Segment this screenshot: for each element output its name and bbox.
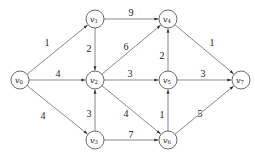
edge-weight-label: 1 [160, 109, 165, 120]
edge-weight-label: 4 [124, 108, 129, 119]
node-v5: v5 [159, 71, 177, 89]
edge-v2-v6 [102, 86, 161, 134]
edge-weight-label: 3 [87, 108, 92, 119]
arrow-line [102, 25, 161, 74]
arrow-line [175, 25, 234, 74]
arrow-line [175, 86, 234, 134]
edge-v4-v7 [175, 25, 234, 74]
nodes-layer: v0v1v2v3v4v5v6v7 [11, 10, 250, 149]
edge-weight-label: 3 [128, 68, 133, 79]
node-v4: v4 [159, 10, 177, 28]
edge-weight-label: 7 [129, 129, 134, 140]
edge-weight-label: 1 [210, 37, 215, 48]
node-v3: v3 [86, 131, 104, 149]
node-v2: v2 [86, 71, 104, 89]
edge-weight-label: 3 [201, 68, 206, 79]
edge-v2-v4 [102, 25, 161, 74]
node-v1: v1 [86, 10, 104, 28]
node-v7: v7 [232, 71, 250, 89]
edge-weight-label: 4 [56, 68, 61, 79]
edge-weight-label: 4 [41, 110, 46, 121]
edges-layer [27, 19, 234, 140]
node-v6: v6 [159, 131, 177, 149]
edge-v6-v7 [175, 86, 234, 134]
graph-diagram: 144926343723115 v0v1v2v3v4v5v6v7 [0, 0, 255, 159]
edge-weights-layer: 144926343723115 [41, 7, 215, 140]
arrow-line [27, 25, 88, 74]
edge-v0-v1 [27, 25, 88, 74]
arrow-line [27, 86, 88, 134]
edge-weight-label: 2 [160, 50, 165, 61]
node-v0: v0 [11, 71, 29, 89]
edge-weight-label: 9 [129, 7, 134, 18]
edge-weight-label: 5 [198, 108, 203, 119]
arrow-line [102, 86, 161, 134]
edge-v0-v3 [27, 86, 88, 134]
edge-weight-label: 6 [124, 41, 129, 52]
edge-weight-label: 1 [45, 37, 50, 48]
edge-weight-label: 2 [87, 43, 92, 54]
